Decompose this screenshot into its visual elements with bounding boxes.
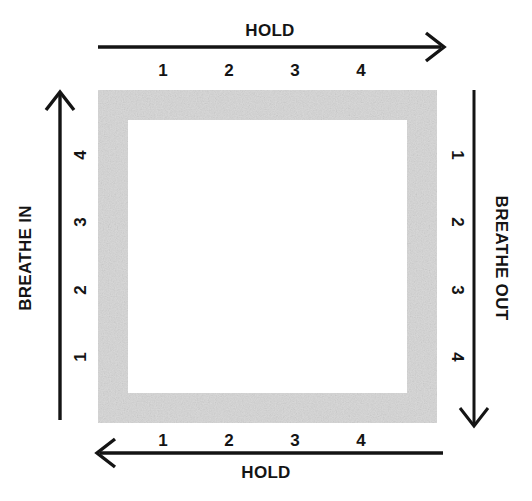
bottom-count-4: 4 (356, 432, 365, 449)
bottom-count-3: 3 (290, 432, 299, 449)
right-count-3: 3 (449, 285, 466, 294)
left-axis-arrow (46, 92, 74, 420)
right-count-4: 4 (449, 352, 466, 361)
top-count-2: 2 (224, 62, 233, 79)
left-count-4: 4 (72, 150, 89, 159)
top-phase-label-hold: HOLD (245, 22, 294, 39)
left-count-3: 3 (72, 217, 89, 226)
bottom-phase-label-hold: HOLD (241, 464, 290, 481)
breathing-box-frame (98, 90, 437, 423)
left-count-2: 2 (72, 285, 89, 294)
bottom-count-2: 2 (224, 432, 233, 449)
right-phase-label-breathe-out: BREATHE OUT (493, 196, 510, 321)
box-breathing-diagram: HOLD HOLD BREATHE IN BREATHE OUT 1 2 3 4… (0, 0, 532, 501)
right-axis-arrow (460, 90, 488, 426)
left-phase-label-breathe-in: BREATHE IN (17, 205, 34, 311)
top-count-4: 4 (356, 62, 365, 79)
diagram-canvas (0, 0, 532, 501)
right-count-1: 1 (449, 150, 466, 159)
top-count-3: 3 (290, 62, 299, 79)
bottom-count-1: 1 (158, 432, 167, 449)
left-count-1: 1 (72, 352, 89, 361)
box-inner-rect (128, 120, 407, 393)
top-count-1: 1 (158, 62, 167, 79)
right-count-2: 2 (449, 217, 466, 226)
